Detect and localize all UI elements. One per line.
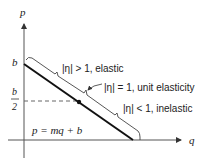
q-axis-label: q — [189, 134, 195, 146]
elastic-label: |η| > 1, elastic — [62, 63, 124, 74]
unit-elasticity-label: |η| = 1, unit elasticity — [104, 82, 195, 93]
midpoint-label-denominator: 2 — [12, 101, 17, 112]
midpoint-label-numerator: b — [12, 86, 17, 97]
intercept-label: b — [12, 56, 18, 68]
p-axis-label: p — [19, 6, 26, 18]
demand-equation: p = mq + b — [31, 124, 83, 136]
elasticity-diagram: p q b b 2 |η| > 1, elastic |η| = 1, unit… — [0, 0, 206, 161]
unit-elasticity-pointer — [88, 84, 102, 90]
inelastic-label: |η| < 1, inelastic — [123, 103, 192, 114]
unit-elasticity-point — [77, 100, 81, 104]
